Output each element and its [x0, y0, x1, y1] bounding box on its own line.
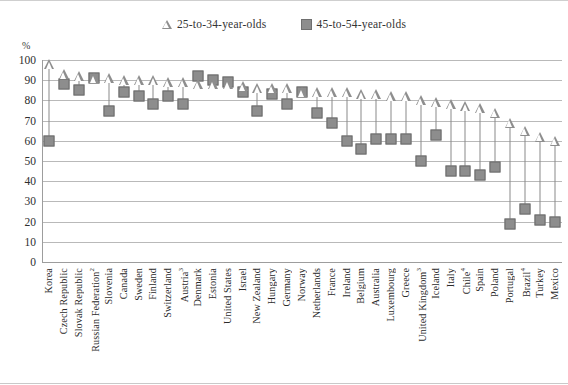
marker-triangle-young[interactable]: [475, 103, 485, 113]
marker-square-older[interactable]: [534, 214, 545, 225]
x-axis-label: Greece: [400, 268, 411, 297]
x-axis-label: Switzerland: [162, 268, 173, 318]
marker-square-older[interactable]: [133, 91, 144, 102]
marker-triangle-young[interactable]: [356, 89, 366, 99]
marker-triangle-young[interactable]: [148, 75, 158, 85]
connector-stem: [346, 92, 347, 140]
marker-triangle-young[interactable]: [386, 91, 396, 101]
marker-triangle-young[interactable]: [44, 59, 54, 69]
x-axis-label: Norway: [296, 268, 307, 301]
marker-triangle-young[interactable]: [416, 95, 426, 105]
marker-triangle-young[interactable]: [550, 136, 560, 146]
marker-square-older[interactable]: [430, 129, 441, 140]
marker-triangle-young[interactable]: [119, 75, 129, 85]
marker-square-older[interactable]: [311, 107, 322, 118]
marker-square-older[interactable]: [59, 79, 70, 90]
marker-square-older[interactable]: [118, 87, 129, 98]
marker-triangle-young[interactable]: [104, 73, 114, 83]
connector-stem: [480, 108, 481, 175]
x-axis-label: Austria3: [177, 268, 190, 302]
marker-triangle-young[interactable]: [238, 81, 248, 91]
x-axis-label: Hungary: [266, 268, 277, 304]
x-axis-label: Chile4: [459, 268, 472, 294]
marker-square-older[interactable]: [490, 162, 501, 173]
marker-square-older[interactable]: [341, 135, 352, 146]
marker-triangle-young[interactable]: [163, 77, 173, 87]
marker-square-older[interactable]: [148, 99, 159, 110]
x-axis-label: Poland: [489, 268, 500, 297]
marker-triangle-young[interactable]: [208, 79, 218, 89]
marker-triangle-young[interactable]: [297, 87, 307, 97]
marker-square-older[interactable]: [326, 117, 337, 128]
x-axis-label: Iceland: [430, 268, 441, 299]
marker-triangle-young[interactable]: [193, 79, 203, 89]
marker-triangle-young[interactable]: [371, 89, 381, 99]
marker-square-older[interactable]: [356, 143, 367, 154]
x-axis-label: Mexico: [549, 268, 560, 300]
x-axis-label: Turkey: [534, 268, 545, 298]
marker-triangle-young[interactable]: [520, 126, 530, 136]
connector-stem: [376, 94, 377, 138]
marker-triangle-young[interactable]: [460, 101, 470, 111]
marker-square-older[interactable]: [103, 105, 114, 116]
marker-square-older[interactable]: [74, 85, 85, 96]
marker-square-older[interactable]: [282, 99, 293, 110]
connector-stem: [465, 106, 466, 171]
marker-square-older[interactable]: [371, 133, 382, 144]
x-axis-label: Germany: [281, 268, 292, 307]
marker-square-older[interactable]: [163, 91, 174, 102]
marker-triangle-young[interactable]: [134, 75, 144, 85]
marker-square-older[interactable]: [519, 204, 530, 215]
marker-triangle-young[interactable]: [89, 73, 99, 83]
marker-square-older[interactable]: [445, 166, 456, 177]
marker-triangle-young[interactable]: [446, 99, 456, 109]
marker-triangle-young[interactable]: [505, 118, 515, 128]
marker-triangle-young[interactable]: [401, 91, 411, 101]
marker-triangle-young[interactable]: [327, 87, 337, 97]
marker-triangle-young[interactable]: [267, 83, 277, 93]
marker-square-older[interactable]: [252, 105, 263, 116]
x-axis-label: Italy: [445, 268, 456, 287]
x-axis-label: Slovenia: [103, 268, 114, 304]
connector-stem: [539, 137, 540, 220]
y-tick-label: 40: [25, 175, 37, 187]
x-axis-label: Estonia: [207, 268, 218, 299]
marker-triangle-young[interactable]: [312, 87, 322, 97]
y-tick-label: 0: [30, 256, 36, 268]
marker-triangle-young[interactable]: [431, 97, 441, 107]
x-axis-label: Spain: [474, 268, 485, 292]
connector-stem: [450, 104, 451, 171]
marker-triangle-young[interactable]: [490, 108, 500, 118]
marker-triangle-young[interactable]: [535, 132, 545, 142]
marker-square-older[interactable]: [549, 216, 560, 227]
x-axis-label: Korea: [43, 268, 54, 293]
x-axis-label: Portugal: [504, 268, 515, 303]
x-axis-label: France: [326, 268, 337, 296]
x-axis-label: United States: [222, 268, 233, 324]
marker-triangle-young[interactable]: [282, 83, 292, 93]
x-axis-label: Finland: [147, 268, 158, 300]
connector-stem: [554, 141, 555, 222]
x-axis-label: United Kingdom3: [415, 268, 428, 342]
marker-triangle-young[interactable]: [59, 69, 69, 79]
connector-stem: [524, 131, 525, 210]
marker-triangle-young[interactable]: [252, 83, 262, 93]
marker-square-older[interactable]: [504, 218, 515, 229]
marker-square-older[interactable]: [400, 133, 411, 144]
y-tick-label: 70: [25, 115, 37, 127]
marker-triangle-young[interactable]: [342, 87, 352, 97]
marker-square-older[interactable]: [178, 99, 189, 110]
marker-square-older[interactable]: [460, 166, 471, 177]
connector-stem: [509, 123, 510, 224]
marker-square-older[interactable]: [386, 133, 397, 144]
x-axis-label: Netherlands: [311, 268, 322, 318]
marker-triangle-young[interactable]: [74, 71, 84, 81]
connector-stem: [49, 64, 50, 141]
marker-square-older[interactable]: [475, 170, 486, 181]
x-axis-label: Israel: [237, 268, 248, 291]
marker-square-older[interactable]: [44, 135, 55, 146]
marker-square-older[interactable]: [415, 156, 426, 167]
marker-triangle-young[interactable]: [178, 77, 188, 87]
marker-triangle-young[interactable]: [223, 79, 233, 89]
x-axis-label: New Zealand: [251, 268, 262, 324]
